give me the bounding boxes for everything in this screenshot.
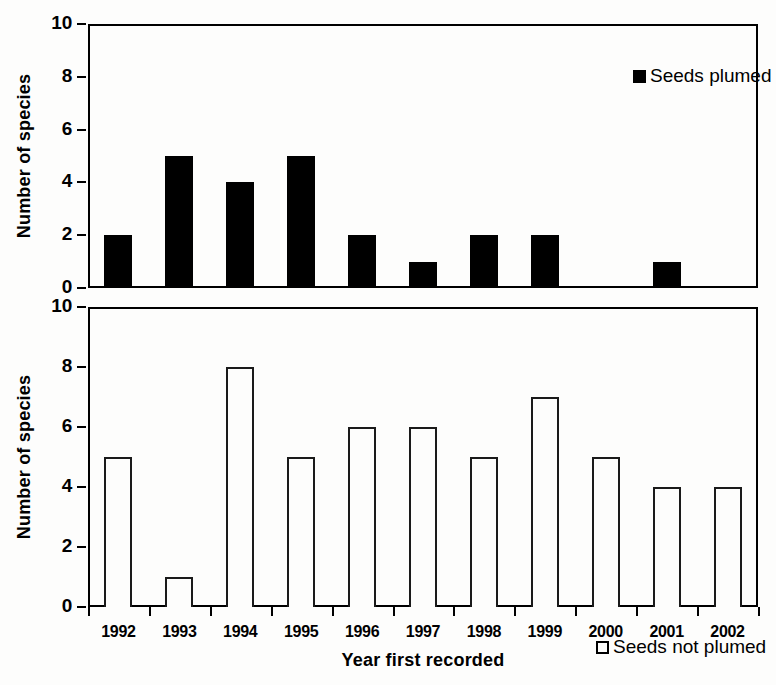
bar-slot [453, 24, 514, 288]
y-axis-title-bottom-panel: Number of species [14, 307, 35, 607]
x-tick-label-2001: 2001 [649, 623, 683, 641]
legend-seeds-plumed: Seeds plumed [633, 66, 771, 86]
y-tick-mark [77, 546, 86, 548]
y-tick-label: 6 [62, 119, 72, 139]
y-tick-label: 4 [62, 476, 72, 496]
x-tick-mark [636, 607, 638, 616]
bar-slot [514, 24, 575, 288]
y-tick-mark [77, 426, 86, 428]
y-tick-label: 8 [62, 356, 72, 376]
x-tick-label-2002: 2002 [710, 623, 744, 641]
bar-slot [636, 24, 697, 288]
bar-seeds-plumed-1995 [287, 156, 315, 288]
y-tick-mark [77, 606, 86, 608]
x-tick-mark [149, 607, 151, 616]
y-tick-label: 2 [62, 224, 72, 244]
x-tick-mark [393, 607, 395, 616]
y-tick-label: 0 [62, 596, 72, 616]
figure-two-panel-bar-chart: 0246810 Number of species Seeds plumed 0… [0, 0, 776, 685]
y-tick-label: 4 [62, 171, 72, 191]
y-tick-mark [77, 306, 86, 308]
y-axis-title-top-panel: Number of species [14, 24, 35, 288]
bar-slot [575, 24, 636, 288]
y-tick-mark [77, 486, 86, 488]
y-tick-label: 10 [51, 13, 72, 33]
bar-seeds-not-plumed-1998 [470, 457, 498, 607]
bar-seeds-plumed-1999 [531, 235, 559, 288]
y-tick-mark [77, 129, 86, 131]
bar-slot [393, 307, 454, 607]
x-tick-mark [210, 607, 212, 616]
x-tick-label-2000: 2000 [589, 623, 623, 641]
bar-seeds-plumed-1992 [104, 235, 132, 288]
x-tick-label-1995: 1995 [284, 623, 318, 641]
bar-seeds-plumed-2001 [653, 262, 681, 288]
bar-seeds-not-plumed-2000 [592, 457, 620, 607]
y-tick-mark [77, 181, 86, 183]
y-tick-label: 8 [62, 66, 72, 86]
x-tick-mark [332, 607, 334, 616]
bar-slot [210, 307, 271, 607]
x-tick-label-1993: 1993 [162, 623, 196, 641]
bar-seeds-not-plumed-1993 [165, 577, 193, 607]
y-tick-mark [77, 23, 86, 25]
bar-slot [453, 307, 514, 607]
bar-seeds-not-plumed-2001 [653, 487, 681, 607]
x-tick-mark [575, 607, 577, 616]
bar-slot [210, 24, 271, 288]
x-tick-label-1992: 1992 [101, 623, 135, 641]
bar-seeds-plumed-1993 [165, 156, 193, 288]
x-axis-title: Year first recorded [88, 650, 758, 671]
bar-slot [149, 24, 210, 288]
x-tick-label-1994: 1994 [223, 623, 257, 641]
filled-square-icon [633, 70, 646, 83]
bar-seeds-not-plumed-1996 [348, 427, 376, 607]
bar-series-seeds-plumed [88, 24, 758, 288]
bar-seeds-not-plumed-1994 [226, 367, 254, 607]
y-tick-label: 6 [62, 416, 72, 436]
bar-slot [271, 307, 332, 607]
bar-slot [88, 307, 149, 607]
bar-seeds-not-plumed-1992 [104, 457, 132, 607]
panel-seeds-not-plumed: Seeds not plumed [88, 307, 758, 607]
bar-seeds-plumed-1994 [226, 182, 254, 288]
x-tick-mark [514, 607, 516, 616]
y-tick-mark [77, 234, 86, 236]
bar-slot [149, 307, 210, 607]
bar-seeds-plumed-1998 [470, 235, 498, 288]
y-axis-bottom-panel: 0246810 [0, 307, 86, 607]
bar-slot [697, 24, 758, 288]
bar-seeds-not-plumed-2002 [714, 487, 742, 607]
bar-slot [636, 307, 697, 607]
bar-seeds-plumed-1997 [409, 262, 437, 288]
bar-slot [575, 307, 636, 607]
bar-slot [88, 24, 149, 288]
bar-series-seeds-not-plumed [88, 307, 758, 607]
bar-slot [697, 307, 758, 607]
panel-seeds-plumed: Seeds plumed [88, 24, 758, 288]
bar-seeds-not-plumed-1995 [287, 457, 315, 607]
y-tick-mark [77, 76, 86, 78]
bar-slot [393, 24, 454, 288]
x-tick-mark [271, 607, 273, 616]
y-tick-label: 10 [51, 296, 72, 316]
y-tick-mark [77, 366, 86, 368]
y-tick-label: 0 [62, 277, 72, 297]
bar-seeds-not-plumed-1999 [531, 397, 559, 607]
x-tick-label-1996: 1996 [345, 623, 379, 641]
bar-slot [514, 307, 575, 607]
bar-slot [332, 307, 393, 607]
x-tick-mark [453, 607, 455, 616]
x-tick-mark [758, 607, 760, 616]
y-axis-top-panel: 0246810 [0, 24, 86, 288]
bar-slot [271, 24, 332, 288]
x-tick-mark [697, 607, 699, 616]
x-tick-label-1999: 1999 [528, 623, 562, 641]
bar-seeds-plumed-1996 [348, 235, 376, 288]
bar-seeds-not-plumed-1997 [409, 427, 437, 607]
x-tick-label-1998: 1998 [467, 623, 501, 641]
x-axis: 1992199319941995199619971998199920002001… [88, 607, 758, 647]
y-tick-label: 2 [62, 536, 72, 556]
x-tick-mark [88, 607, 90, 616]
y-tick-mark [77, 287, 86, 289]
